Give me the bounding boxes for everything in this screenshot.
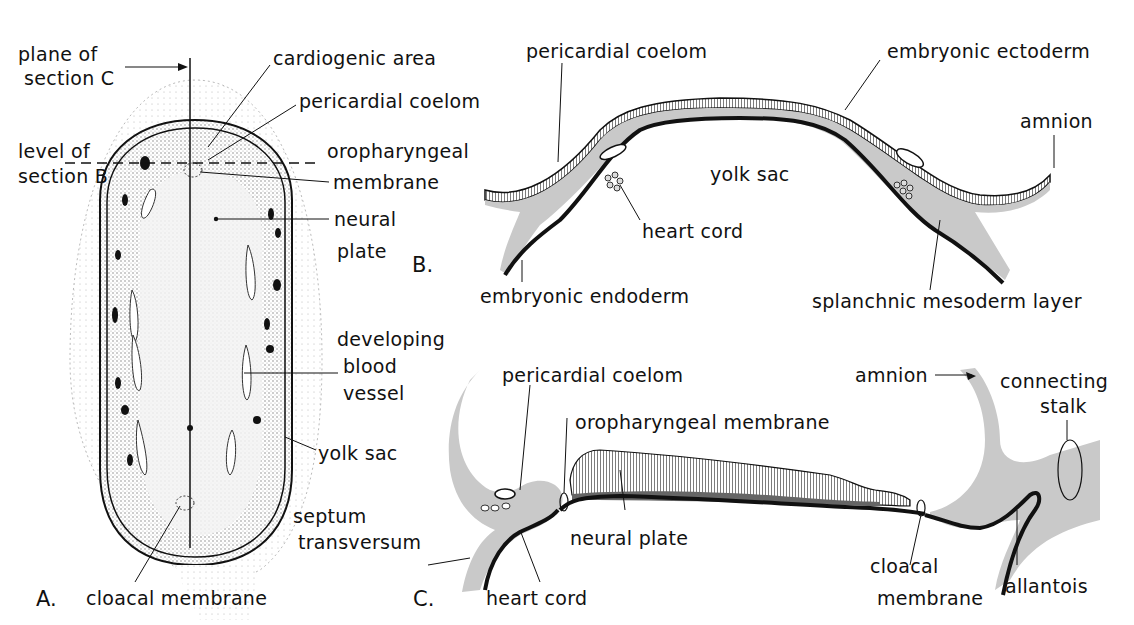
label-septum-transversum-line1: septum <box>293 505 366 527</box>
label-connecting-stalk-line1: connecting <box>1000 370 1108 392</box>
label-amnion-c: amnion <box>855 364 928 386</box>
label-embryonic-endoderm: embryonic endoderm <box>480 285 689 307</box>
label-neural-plate-c: neural plate <box>570 527 688 549</box>
label-pericardial-coelom-a: pericardial coelom <box>299 90 480 112</box>
label-heart-cord-b: heart cord <box>642 220 743 242</box>
label-level-of-section-b-line1: level of <box>18 140 90 162</box>
label-cloacal-membrane-c-line1: cloacal <box>870 555 938 577</box>
label-yolk-sac-a: yolk sac <box>318 442 398 464</box>
label-pericardial-coelom-b: pericardial coelom <box>526 40 707 62</box>
embryo-diagram-artwork <box>0 0 1134 625</box>
label-oropharyngeal-line1: oropharyngeal <box>327 140 469 162</box>
label-level-of-section-b-line2: section B <box>18 165 108 187</box>
label-plane-of-section-c-line2: section C <box>24 67 114 89</box>
label-developing-blood-vessel-line1: developing <box>337 328 445 350</box>
label-developing-blood-vessel-line3: vessel <box>343 382 405 404</box>
panel-c-drawing <box>428 368 1100 595</box>
label-embryonic-ectoderm: embryonic ectoderm <box>887 40 1090 62</box>
label-neural-plate-a-line1: neural <box>334 208 396 230</box>
label-amnion-b: amnion <box>1020 110 1093 132</box>
label-cardiogenic-area: cardiogenic area <box>273 47 436 69</box>
label-pericardial-coelom-c: pericardial coelom <box>502 364 683 386</box>
label-neural-plate-a-line2: plate <box>337 240 387 262</box>
label-splanchnic-mesoderm: splanchnic mesoderm layer <box>812 290 1082 312</box>
panel-a-label: A. <box>36 587 57 611</box>
label-cloacal-membrane-c-line2: membrane <box>877 587 983 609</box>
label-connecting-stalk-line2: stalk <box>1040 395 1087 417</box>
label-septum-transversum-line2: transversum <box>298 531 421 553</box>
label-oropharyngeal-membrane-c: oropharyngeal membrane <box>575 411 830 433</box>
label-allantois: allantois <box>1005 575 1088 597</box>
label-developing-blood-vessel-line2: blood <box>343 355 397 377</box>
label-heart-cord-c: heart cord <box>486 587 587 609</box>
label-oropharyngeal-line2: membrane <box>333 171 439 193</box>
label-plane-of-section-c-line1: plane of <box>18 43 97 65</box>
panel-b-label: B. <box>412 253 433 277</box>
panel-c-label: C. <box>413 587 434 611</box>
label-yolk-sac-b: yolk sac <box>710 163 790 185</box>
label-cloacal-membrane-a: cloacal membrane <box>86 587 267 609</box>
